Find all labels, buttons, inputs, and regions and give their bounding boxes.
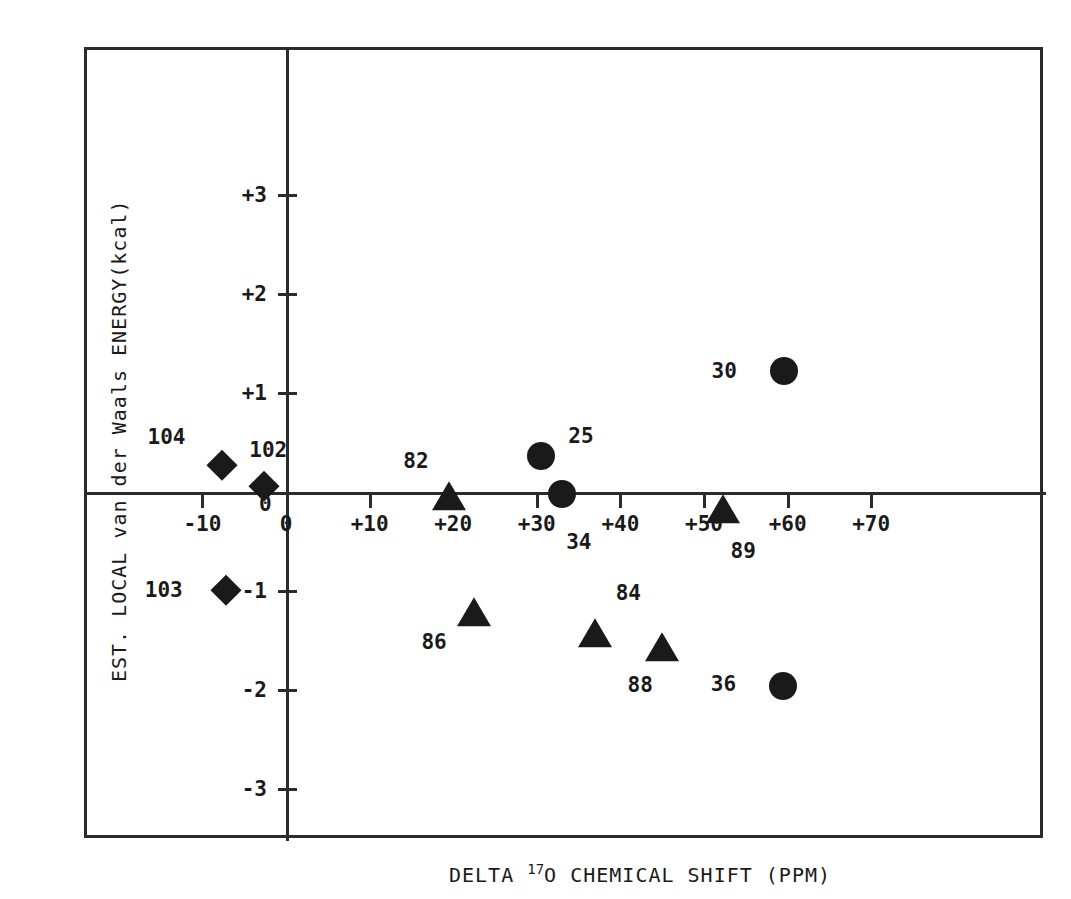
data-point-circle-34	[548, 480, 576, 508]
y-tick-mark	[278, 293, 297, 296]
x-axis-title: DELTA 17O CHEMICAL SHIFT (PPM)	[449, 861, 831, 887]
y-tick-label: +2	[221, 282, 267, 306]
data-point-triangle-84	[578, 618, 612, 647]
data-point-label-82: 82	[403, 449, 428, 473]
y-tick-label: +1	[221, 381, 267, 405]
y-tick-mark	[278, 194, 297, 197]
data-point-label-104: 104	[147, 425, 185, 449]
data-point-triangle-82	[432, 481, 466, 510]
x-tick-mark	[619, 495, 622, 508]
data-point-label-84: 84	[616, 581, 641, 605]
x-axis-title-suffix: O CHEMICAL SHIFT (PPM)	[544, 863, 831, 887]
scatter-plot-figure: -100+10+20+30+40+50+60+70 +3+2+10-1-2-3 …	[0, 0, 1071, 899]
x-tick-mark	[201, 495, 204, 508]
y-tick-mark	[278, 689, 297, 692]
data-point-triangle-86	[457, 597, 491, 626]
data-point-label-30: 30	[712, 359, 737, 383]
y-tick-mark	[278, 590, 297, 593]
data-point-label-86: 86	[421, 630, 446, 654]
x-axis-title-prefix: DELTA	[449, 863, 527, 887]
x-axis-title-superscript: 17	[527, 861, 544, 877]
data-point-triangle-88	[645, 633, 679, 662]
x-tick-mark	[787, 495, 790, 508]
plot-frame: -100+10+20+30+40+50+60+70 +3+2+10-1-2-3 …	[84, 47, 1043, 838]
data-point-diamond-102	[249, 471, 280, 502]
y-tick-label: +3	[221, 183, 267, 207]
x-tick-label: +70	[852, 512, 890, 536]
y-tick-label: -2	[221, 678, 267, 702]
y-tick-mark	[278, 788, 297, 791]
data-point-diamond-104	[207, 450, 238, 481]
x-tick-label: +10	[351, 512, 389, 536]
x-tick-label: +30	[518, 512, 556, 536]
data-point-circle-36	[769, 672, 797, 700]
data-point-label-102: 102	[249, 438, 287, 462]
x-tick-mark	[870, 495, 873, 508]
data-point-label-34: 34	[566, 530, 591, 554]
data-point-label-36: 36	[711, 672, 736, 696]
y-tick-mark	[278, 392, 297, 395]
data-point-label-103: 103	[145, 578, 183, 602]
data-point-triangle-89	[706, 494, 740, 523]
x-tick-label: +60	[769, 512, 807, 536]
x-tick-label: +20	[434, 512, 472, 536]
data-point-circle-25	[527, 442, 555, 470]
x-tick-mark	[536, 495, 539, 508]
x-tick-label: +40	[601, 512, 639, 536]
data-point-label-25: 25	[568, 424, 593, 448]
x-tick-label: -10	[183, 512, 221, 536]
data-point-label-89: 89	[731, 539, 756, 563]
x-tick-label: 0	[280, 512, 293, 536]
data-point-label-88: 88	[628, 673, 653, 697]
y-tick-label: -3	[221, 777, 267, 801]
data-point-circle-30	[770, 357, 798, 385]
y-axis-title: EST. LOCAL van der Waals ENERGY(kcal)	[107, 262, 131, 682]
x-tick-mark	[369, 495, 372, 508]
